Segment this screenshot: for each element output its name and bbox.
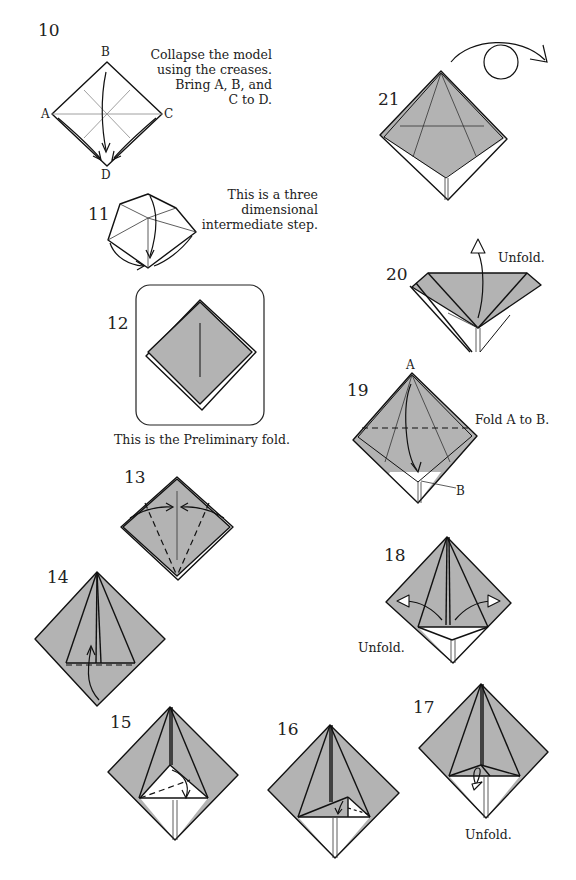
step-12-caption: This is the Preliminary fold. bbox=[114, 432, 290, 447]
step-number-13: 13 bbox=[124, 467, 146, 487]
step-19-caption: Fold A to B. bbox=[475, 412, 549, 427]
step-number-14: 14 bbox=[47, 567, 69, 587]
step-17-caption: Unfold. bbox=[465, 827, 512, 842]
caption-line: dimensional bbox=[170, 202, 318, 217]
step-17-diagram bbox=[419, 684, 548, 818]
step-number-18: 18 bbox=[384, 545, 406, 565]
caption-line: This is a three bbox=[170, 187, 318, 202]
step-13-diagram bbox=[121, 477, 233, 580]
label-d: D bbox=[101, 168, 111, 182]
label-c: C bbox=[164, 107, 173, 121]
step-number-21: 21 bbox=[378, 89, 400, 109]
step-number-12: 12 bbox=[107, 313, 129, 333]
step-number-15: 15 bbox=[110, 712, 132, 732]
step-14-diagram bbox=[35, 572, 165, 706]
step-10-caption: Collapse the model using the creases. Br… bbox=[120, 47, 272, 107]
step-number-16: 16 bbox=[277, 719, 299, 739]
label-a-19: A bbox=[406, 358, 415, 372]
label-b: B bbox=[101, 45, 110, 59]
step-18-caption: Unfold. bbox=[358, 640, 405, 655]
caption-line: intermediate step. bbox=[170, 217, 318, 232]
step-number-11: 11 bbox=[88, 204, 110, 224]
step-20-caption: Unfold. bbox=[498, 250, 545, 265]
caption-line: C to D. bbox=[120, 92, 272, 107]
step-number-19: 19 bbox=[347, 380, 369, 400]
step-number-17: 17 bbox=[413, 697, 435, 717]
step-21-diagram bbox=[380, 43, 547, 200]
step-number-10: 10 bbox=[38, 20, 60, 40]
step-16-diagram bbox=[268, 725, 399, 858]
step-11-caption: This is a three dimensional intermediate… bbox=[170, 187, 318, 232]
step-12-diagram bbox=[136, 285, 264, 425]
caption-line: Bring A, B, and bbox=[120, 77, 272, 92]
caption-line: using the creases. bbox=[120, 62, 272, 77]
label-a: A bbox=[41, 107, 50, 121]
caption-line: Collapse the model bbox=[120, 47, 272, 62]
label-b-19: B bbox=[456, 484, 465, 498]
step-number-20: 20 bbox=[386, 264, 408, 284]
